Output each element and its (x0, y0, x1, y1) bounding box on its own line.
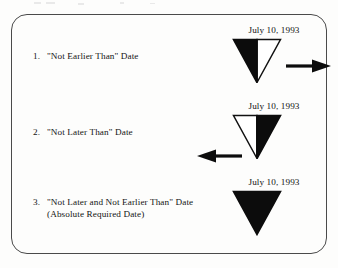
milestone-label-3: 3."Not Later and Not Earlier Than" Date … (33, 196, 229, 221)
milestone-label-2: 2."Not Later Than" Date (33, 126, 229, 138)
milestone-date-2: July 10, 1993 (228, 101, 320, 112)
milestone-text-1: "Not Earlier Than" Date (47, 51, 139, 61)
milestone-date-3: July 10, 1993 (228, 177, 320, 188)
milestone-row-1: 1."Not Earlier Than" Date July 10, 1993 (0, 22, 338, 102)
arrow-left-icon (196, 148, 242, 164)
milestone-number-3: 3. (33, 196, 47, 208)
arrow-right-icon (286, 58, 332, 74)
scan-artifact (46, 2, 55, 4)
milestone-text-2: "Not Later Than" Date (47, 127, 133, 137)
scan-artifact (78, 3, 84, 5)
figure-canvas: 1."Not Earlier Than" Date July 10, 1993 … (0, 0, 338, 268)
scan-artifact (150, 3, 155, 4)
half-black-left-triangle-down-icon (232, 38, 284, 84)
milestone-number-2: 2. (33, 126, 47, 138)
milestone-number-1: 1. (33, 50, 47, 62)
scan-artifact (120, 2, 124, 4)
milestone-text-3: "Not Later and Not Earlier Than" Date (47, 197, 193, 207)
scan-artifact (34, 2, 41, 4)
milestone-label-1: 1."Not Earlier Than" Date (33, 50, 229, 62)
milestone-row-2: 2."Not Later Than" Date July 10, 1993 (0, 98, 338, 178)
solid-black-triangle-down-icon (232, 190, 284, 236)
milestone-subtext-3: (Absolute Required Date) (33, 208, 229, 220)
milestone-date-1: July 10, 1993 (228, 25, 320, 36)
milestone-row-3: 3."Not Later and Not Earlier Than" Date … (0, 174, 338, 254)
